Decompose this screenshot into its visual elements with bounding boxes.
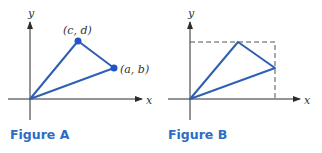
label-ab: (a, b) xyxy=(120,63,149,76)
figure-b: y x xyxy=(168,7,311,120)
label-cd: (c, d) xyxy=(63,24,92,37)
x-axis-label: x xyxy=(146,94,153,107)
point-cd xyxy=(75,38,82,45)
figure-a-caption: Figure A xyxy=(10,127,69,142)
triangle xyxy=(30,41,114,99)
triangle xyxy=(190,42,275,99)
y-axis-label: y xyxy=(187,7,195,20)
figure-b-caption: Figure B xyxy=(168,127,227,142)
y-axis-label: y xyxy=(27,7,35,20)
point-ab xyxy=(111,65,118,72)
figure-a: y x (c, d) (a, b) xyxy=(8,7,153,120)
bounding-box xyxy=(190,42,275,99)
x-axis-label: x xyxy=(304,94,311,107)
